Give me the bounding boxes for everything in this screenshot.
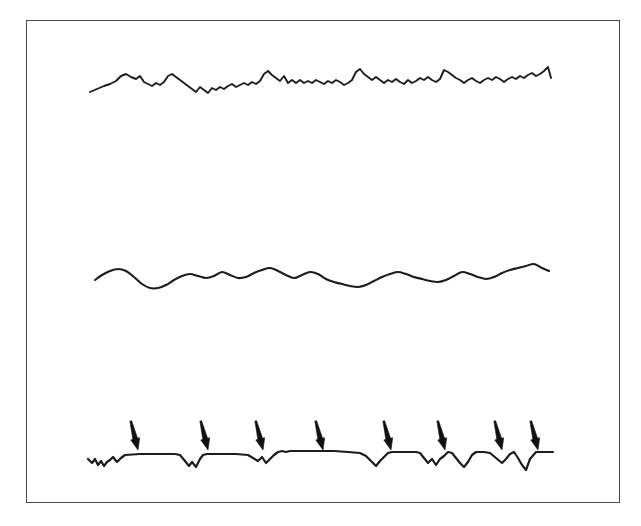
- figure-border-frame: [26, 20, 620, 503]
- figure-root: [0, 0, 641, 526]
